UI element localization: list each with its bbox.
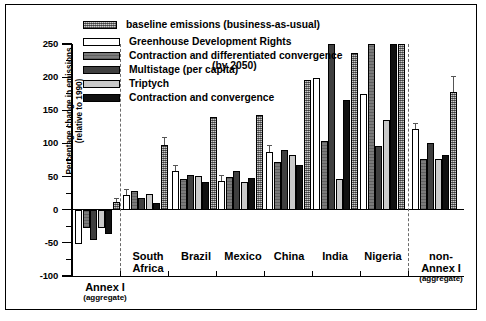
bar-multistage-nigeria: [375, 146, 382, 210]
bar-baseline-non-annex-i: [450, 92, 457, 209]
legend-row-cc2050: Contraction and convergence: [83, 91, 342, 104]
x-tick-6: [408, 271, 409, 276]
bar-gdr-non-annex-i: [412, 129, 419, 210]
y-tick-0: [62, 209, 72, 210]
group-label-text: non-: [429, 250, 453, 262]
error-bar-cap: [219, 175, 224, 176]
x-tick-1: [168, 271, 169, 276]
bar-triptych-nigeria: [383, 120, 390, 210]
bar-group-non-annex-i: [412, 44, 458, 276]
y-tick-250: [62, 43, 72, 44]
bar-cdc-china: [274, 162, 281, 210]
legend-swatch-cdc-icon: [83, 52, 120, 60]
chart-legend: baseline emissions (business-as-usual) G…: [83, 18, 342, 105]
bar-baseline-annex-i: [113, 202, 120, 209]
bar-cdc-brazil: [180, 179, 187, 209]
y-tick-label-250: 250: [28, 38, 58, 49]
group-label-text: China: [274, 250, 305, 262]
bar-cdc-nigeria: [368, 44, 375, 210]
legend-label-cc2050-second-line: (by 2050): [212, 60, 257, 71]
group-label-text: Brazil: [181, 250, 211, 262]
legend-row-gdr: Greenhouse Development Rights: [83, 35, 342, 48]
y-tick-100: [62, 143, 72, 144]
error-bar-cap: [451, 76, 456, 77]
group-sublabel: (aggregate): [70, 293, 140, 303]
bar-cdc-mexico: [226, 177, 233, 210]
bar-triptych-mexico: [241, 182, 248, 210]
bar-gdr-nigeria: [360, 94, 367, 210]
bar-gdr-annex-i: [75, 210, 82, 244]
bar-multistage-brazil: [187, 175, 194, 210]
group-sublabel: (aggregate): [410, 274, 472, 284]
group-label-text: India: [322, 250, 348, 262]
error-bar-cap: [267, 145, 272, 146]
legend-swatch-triptych-icon: [83, 80, 120, 88]
y-tick-label-50: 50: [28, 171, 58, 182]
y-tick-label-150: 150: [28, 104, 58, 115]
legend-swatch-baseline-icon: [83, 21, 117, 29]
bar-baseline-mexico: [256, 115, 263, 210]
error-bar-cap: [162, 137, 167, 138]
bar-gdr-mexico: [218, 181, 225, 210]
error-bar-cap: [114, 198, 119, 199]
bar-cdc-india: [321, 141, 328, 210]
bar-gdr-south-africa: [123, 195, 130, 210]
bar-multistage-non-annex-i: [427, 143, 434, 209]
x-tick-3: [264, 271, 265, 276]
bar-triptych-china: [289, 155, 296, 209]
y-tick-150: [62, 110, 72, 111]
legend-swatch-multistage-icon: [83, 66, 120, 74]
error-bar: [164, 137, 165, 145]
bar-cdc-annex-i: [83, 210, 90, 229]
error-bar-cap: [413, 123, 418, 124]
bar-triptych-annex-i: [98, 210, 105, 229]
bar-triptych-brazil: [195, 176, 202, 210]
legend-label-triptych: Triptych: [129, 78, 169, 89]
bar-gdr-brazil: [172, 171, 179, 209]
bar-cc2050-brazil: [202, 182, 209, 210]
bar-cdc-non-annex-i: [420, 159, 427, 209]
group-label-nigeria: Nigeria: [352, 250, 414, 262]
legend-row-triptych: Triptych: [83, 77, 342, 90]
y-tick--50: [62, 242, 72, 243]
y-tick-label-100: 100: [28, 137, 58, 148]
bar-multistage-mexico: [233, 171, 240, 209]
bar-cc2050-india: [343, 100, 350, 209]
error-bar-cap: [124, 189, 129, 190]
y-tick-label--100: -100: [28, 270, 58, 281]
group-label-annex-i: Annex I(aggregate): [70, 281, 140, 303]
chart-page: Percentage change in emissions (relative…: [0, 0, 486, 321]
error-bar-cap: [173, 165, 178, 166]
bar-cc2050-mexico: [248, 178, 255, 210]
y-axis-labels: -100-50050100150200250: [24, 0, 58, 321]
x-tick-4: [312, 271, 313, 276]
group-label-text: South: [132, 250, 163, 262]
bar-baseline-nigeria: [398, 44, 405, 210]
y-tick-50: [62, 176, 72, 177]
bar-triptych-india: [336, 179, 343, 210]
y-tick-200: [62, 77, 72, 78]
y-tick-label--50: -50: [28, 237, 58, 248]
bar-multistage-south-africa: [138, 198, 145, 209]
bar-gdr-china: [266, 152, 273, 210]
x-tick-5: [360, 271, 361, 276]
bar-triptych-south-africa: [146, 194, 153, 209]
bar-cc2050-nigeria: [390, 44, 397, 210]
y-tick-label-0: 0: [28, 204, 58, 215]
bar-group-nigeria: [360, 44, 406, 276]
bar-cc2050-annex-i: [105, 210, 112, 235]
bar-baseline-india: [351, 53, 358, 209]
bar-multistage-china: [281, 150, 288, 210]
legend-row-baseline: baseline emissions (business-as-usual): [83, 18, 342, 31]
bar-multistage-annex-i: [90, 210, 97, 240]
legend-label-gdr: Greenhouse Development Rights: [129, 36, 292, 47]
bar-baseline-brazil: [210, 117, 217, 210]
legend-swatch-cc2050-icon: [83, 94, 120, 102]
group-label-text-2: Annex I: [410, 262, 472, 274]
y-tick--100: [62, 275, 72, 276]
legend-swatch-gdr-icon: [83, 38, 120, 46]
group-label-text: Annex I: [85, 281, 125, 293]
bar-cdc-south-africa: [131, 191, 138, 210]
group-label-non-: non-Annex I(aggregate): [410, 250, 472, 284]
legend-label-baseline: baseline emissions (business-as-usual): [126, 19, 320, 30]
